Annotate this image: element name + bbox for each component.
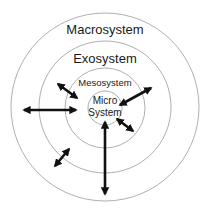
- macrosystem-label: Macrosystem: [66, 22, 143, 37]
- microsystem-label-line1: Micro: [93, 95, 118, 106]
- microsystem-label-line2: System: [88, 107, 121, 118]
- upper-left-diagonal-double-arrow-icon: [58, 84, 77, 98]
- mesosystem-label: Mesosystem: [78, 77, 131, 88]
- exosystem-label: Exosystem: [73, 51, 137, 66]
- ecological-systems-diagram: Macrosystem Exosystem Mesosystem Micro S…: [0, 0, 205, 211]
- lower-left-diagonal-double-arrow-icon: [55, 149, 69, 166]
- lower-right-diagonal-double-arrow-icon: [117, 119, 133, 131]
- upper-right-diagonal-double-arrow-icon: [120, 88, 151, 105]
